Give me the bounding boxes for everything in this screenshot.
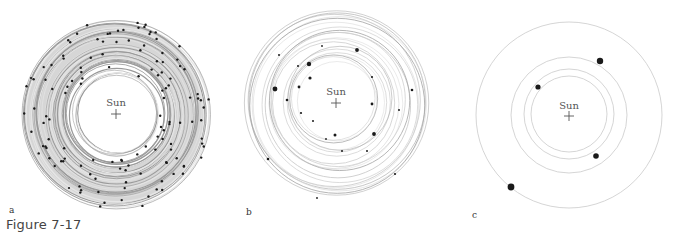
planetesimal: [30, 131, 32, 133]
planetesimal: [48, 118, 50, 120]
protoplanet: [316, 197, 318, 199]
planetesimal: [124, 187, 126, 189]
orbit: [287, 53, 387, 153]
planetesimal: [25, 85, 27, 87]
protoplanet: [372, 132, 376, 136]
panel-label-c: c: [472, 210, 477, 220]
planetesimal: [117, 30, 119, 32]
protoplanet: [371, 76, 373, 78]
planetesimal: [163, 129, 165, 131]
planetesimal: [94, 178, 96, 180]
planetesimal: [33, 107, 35, 109]
planetesimal: [170, 148, 172, 150]
planetesimal: [189, 96, 191, 98]
protoplanet: [371, 103, 374, 106]
planetesimal: [197, 97, 199, 99]
planetesimal: [155, 31, 157, 33]
planetesimal: [42, 145, 44, 147]
planetesimal: [71, 80, 73, 82]
orbit: [65, 62, 168, 165]
planetesimal: [168, 123, 170, 125]
planetesimal: [156, 60, 158, 62]
planetesimal: [161, 180, 163, 182]
protoplanet: [300, 112, 302, 114]
planetesimal: [107, 33, 109, 35]
planetesimal: [51, 88, 53, 90]
planetesimal: [45, 115, 47, 117]
protoplanet: [312, 120, 314, 122]
planetesimal: [92, 159, 94, 161]
planetesimal: [162, 61, 164, 63]
planetesimal: [161, 71, 163, 73]
planetesimal: [121, 199, 123, 201]
planetesimal: [170, 143, 172, 145]
orbit: [297, 62, 376, 141]
planetesimal: [161, 89, 163, 91]
planetesimal: [176, 157, 178, 159]
planetesimal: [125, 181, 127, 183]
planetesimal: [176, 58, 178, 60]
planetesimal: [136, 153, 138, 155]
planetesimal: [161, 138, 163, 140]
planetesimal: [201, 137, 203, 139]
planetesimal: [89, 173, 91, 175]
planetesimal: [103, 202, 105, 204]
protoplanet: [273, 87, 278, 92]
protoplanet: [308, 76, 311, 79]
planetesimal: [147, 195, 149, 197]
planetesimal: [160, 126, 162, 128]
planetesimal: [80, 67, 82, 69]
planetesimal: [80, 71, 82, 73]
planetesimal: [90, 57, 92, 59]
planetesimal: [80, 83, 82, 85]
planetesimal: [108, 66, 110, 68]
planetesimal: [64, 92, 66, 94]
protoplanet: [298, 86, 301, 89]
planetesimal: [43, 66, 45, 68]
protoplanet: [394, 173, 396, 175]
planetesimal: [150, 68, 152, 70]
planetesimal: [68, 187, 70, 189]
planetesimal: [163, 97, 165, 99]
planetesimal: [119, 167, 121, 169]
planetesimal: [79, 191, 81, 193]
planetesimal: [62, 55, 64, 57]
planetesimal: [30, 77, 32, 79]
planetesimal: [157, 74, 159, 76]
planetesimal: [161, 52, 163, 54]
orbit: [288, 46, 392, 150]
orbit: [69, 68, 164, 163]
planetesimal: [179, 122, 181, 124]
planetesimal: [200, 156, 202, 158]
planetesimal: [200, 99, 202, 101]
planetesimal: [157, 135, 159, 137]
protoplanet: [334, 134, 337, 137]
planetesimal: [161, 189, 163, 191]
figure-caption: Figure 7-17: [6, 217, 82, 232]
planetesimal: [67, 39, 69, 41]
sun-label-b: Sun: [326, 86, 346, 97]
planetesimal: [120, 159, 122, 161]
sun-crosshair-b: [331, 98, 341, 108]
planetesimal: [45, 147, 47, 149]
protoplanet: [297, 65, 299, 67]
planetesimal: [62, 57, 64, 59]
planetesimal: [165, 161, 167, 163]
planetesimal: [86, 24, 88, 26]
protoplanet: [278, 54, 280, 56]
planetesimal: [78, 185, 80, 187]
planetesimal: [48, 157, 50, 159]
planetesimal: [203, 145, 205, 147]
planetesimal: [145, 145, 147, 147]
planetesimal: [66, 86, 68, 88]
protoplanet: [325, 138, 327, 140]
planetesimal: [69, 41, 71, 43]
planetesimal: [191, 121, 193, 123]
planetesimal: [143, 26, 145, 28]
planetesimal: [101, 53, 103, 55]
planetesimal: [38, 152, 40, 154]
planetesimal: [128, 39, 130, 41]
planetesimal: [156, 188, 158, 190]
planetesimal: [203, 106, 205, 108]
planetesimal: [168, 121, 170, 123]
